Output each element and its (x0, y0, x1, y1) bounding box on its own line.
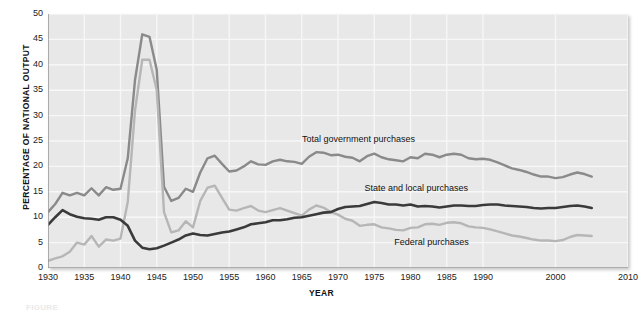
annotation-total-government-purchases: Total government purchases (302, 134, 415, 144)
y-tick-label: 20 (3, 160, 43, 170)
x-axis-title: YEAR (0, 288, 643, 298)
figure-container: PERCENTAGE OF NATIONAL OUTPUT 0510152025… (0, 0, 643, 312)
y-tick-label: 30 (3, 110, 43, 120)
x-tick-label: 2010 (606, 272, 643, 282)
x-tick-label: 1990 (461, 272, 505, 282)
y-tick-label: 25 (3, 135, 43, 145)
y-tick-label: 40 (3, 59, 43, 69)
figure-caption: FIGURE (26, 303, 58, 312)
y-axis-title: PERCENTAGE OF NATIONAL OUTPUT (21, 27, 31, 227)
annotation-federal-purchases: Federal purchases (394, 237, 469, 247)
y-tick-label: 15 (3, 186, 43, 196)
y-tick-label: 50 (3, 8, 43, 18)
y-tick-label: 10 (3, 211, 43, 221)
y-tick-label: 5 (3, 237, 43, 247)
y-tick-label: 35 (3, 84, 43, 94)
y-tick-label: 45 (3, 33, 43, 43)
annotation-state-and-local-purchases: State and local purchases (365, 183, 469, 193)
x-tick-label: 2000 (534, 272, 578, 282)
y-tick-label: 0 (3, 262, 43, 272)
